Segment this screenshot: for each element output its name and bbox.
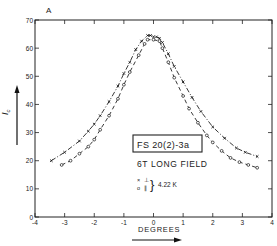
svg-text:1: 1: [181, 219, 185, 226]
svg-text:50: 50: [26, 73, 34, 80]
svg-text:}: }: [150, 177, 155, 192]
legend-entry-perp: ⊥: [144, 177, 149, 183]
svg-text:3: 3: [241, 219, 245, 226]
legend-sample-label: FS 20(2)-3a: [137, 140, 189, 150]
svg-text:40: 40: [26, 101, 34, 108]
svg-text:-1: -1: [121, 219, 127, 226]
svg-text:60: 60: [26, 45, 34, 52]
panel-label: A: [46, 6, 52, 15]
plot-axes: -4-3-2-101234010203040506070: [26, 17, 274, 227]
svg-text:×: ×: [137, 177, 140, 183]
legend-field-label: 6T LONG FIELD: [137, 159, 207, 169]
svg-text:o: o: [137, 185, 140, 191]
legend: FS 20(2)-3a 6T LONG FIELD × ⊥ o ∥ } 4.22…: [133, 135, 207, 192]
svg-text:0: 0: [29, 214, 33, 221]
svg-text:2: 2: [211, 219, 215, 226]
series-parallel: [60, 38, 258, 169]
chart: -4-3-2-101234010203040506070 A Ic DEGREE…: [0, 0, 277, 246]
svg-text:30: 30: [26, 129, 34, 136]
svg-text:70: 70: [26, 17, 34, 24]
svg-text:DEGREES: DEGREES: [138, 225, 180, 234]
svg-text:-3: -3: [62, 219, 68, 226]
legend-entry-parallel: ∥: [144, 185, 147, 192]
legend-temperature: 4.22 K: [158, 181, 177, 188]
svg-text:-4: -4: [32, 219, 38, 226]
svg-text:20: 20: [26, 157, 34, 164]
x-axis-label: DEGREES: [132, 225, 182, 243]
y-axis-label: Ic: [0, 85, 20, 145]
svg-text:4: 4: [270, 219, 274, 226]
svg-text:Ic: Ic: [0, 109, 11, 115]
svg-text:-2: -2: [91, 219, 97, 226]
svg-text:10: 10: [26, 185, 34, 192]
